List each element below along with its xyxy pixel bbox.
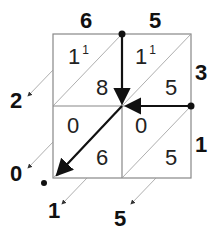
cell-0-1-upper: 11 <box>135 46 156 68</box>
cell-1-1-lower: 5 <box>165 147 177 169</box>
result-digit-3: 5 <box>114 208 126 230</box>
cell-1-0-upper: 0 <box>67 115 79 137</box>
start-dot <box>119 31 126 38</box>
cell-1-1-upper: 0 <box>135 115 147 137</box>
decimal-dot <box>41 180 47 186</box>
lattice-grid <box>0 0 217 236</box>
right-dot <box>188 103 195 110</box>
right-digit-1: 1 <box>195 134 207 156</box>
top-digit-0: 6 <box>80 10 92 32</box>
cell-0-0-lower: 8 <box>96 77 108 99</box>
cell-0-0-upper: 11 <box>68 46 89 68</box>
result-digit-1: 0 <box>10 163 22 185</box>
cell-0-1-lower: 5 <box>165 77 177 99</box>
result-digit-2: 1 <box>48 200 60 222</box>
top-digit-1: 5 <box>149 10 161 32</box>
result-digit-0: 2 <box>10 90 22 112</box>
right-digit-0: 3 <box>195 62 207 84</box>
cell-1-0-lower: 6 <box>96 147 108 169</box>
